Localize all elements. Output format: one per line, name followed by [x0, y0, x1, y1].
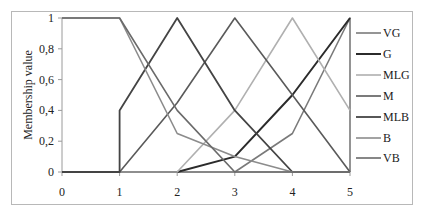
legend-label: VG [383, 26, 401, 40]
legend-item-mlb: MLB [356, 110, 409, 124]
x-tick-label: 1 [117, 185, 123, 199]
x-tick-label: 4 [289, 185, 295, 199]
x-tick-label: 2 [174, 185, 180, 199]
y-tick-label: 0,6 [39, 73, 54, 87]
legend-label: M [383, 89, 394, 103]
y-tick-label: 0,2 [39, 134, 54, 148]
legend-item-m: M [356, 89, 394, 103]
legend-item-g: G [356, 47, 392, 61]
x-tick-label: 0 [59, 185, 65, 199]
legend-item-vb: VB [356, 151, 400, 165]
legend: VGGMLGMMLBBVB [356, 26, 410, 165]
y-tick-label: 0 [48, 165, 54, 179]
y-tick-label: 0,8 [39, 42, 54, 56]
legend-label: G [383, 47, 392, 61]
legend-label: MLG [383, 68, 410, 82]
legend-label: MLB [383, 110, 409, 124]
legend-label: B [383, 131, 391, 145]
legend-item-vg: VG [356, 26, 401, 40]
y-axis-title: Membership value [21, 50, 35, 140]
series-line-mlg [62, 18, 350, 172]
legend-item-mlg: MLG [356, 68, 410, 82]
legend-item-b: B [356, 131, 391, 145]
series-layer [62, 18, 350, 172]
y-axis-label: Membership value [21, 50, 35, 140]
legend-label: VB [383, 151, 400, 165]
x-tick-label: 3 [232, 185, 238, 199]
y-tick-label: 0,4 [39, 103, 54, 117]
membership-chart: Membership value 00,20,40,60,81012345 VG… [0, 0, 425, 216]
x-tick-label: 5 [347, 185, 353, 199]
y-tick-label: 1 [48, 11, 54, 25]
